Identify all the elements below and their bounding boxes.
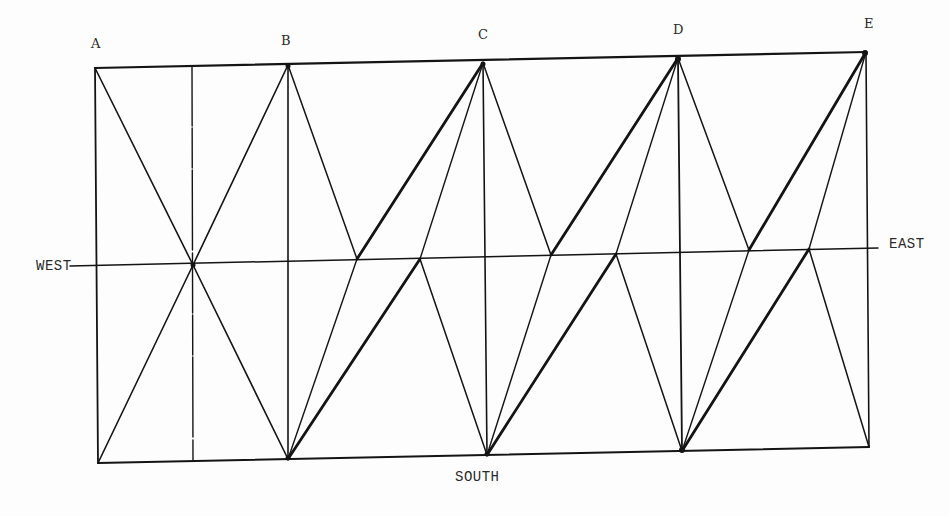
direction-label-south: SOUTH xyxy=(455,469,500,485)
diag-E-P5-heavy xyxy=(749,52,866,250)
joint-E-top xyxy=(862,50,868,56)
joint-B-bot xyxy=(286,456,291,461)
vertical-D xyxy=(678,58,682,451)
diag-Dbot-P6-heavy xyxy=(682,249,809,451)
diag-Bbot-M xyxy=(193,265,288,459)
diag-E-P6 xyxy=(809,52,866,249)
joint-D-bot xyxy=(679,447,685,453)
diag-Dbot-P5 xyxy=(682,250,749,451)
diag-C-P3 xyxy=(483,63,551,255)
diag-Bbot-P1 xyxy=(288,259,357,459)
diag-Ebot-P6 xyxy=(809,249,869,447)
node-label-A: A xyxy=(91,36,101,51)
joint-D-top xyxy=(675,56,681,62)
diag-Bbot-P2-heavy xyxy=(288,259,420,459)
diag-D-P5 xyxy=(678,58,749,250)
direction-label-east: EAST xyxy=(889,236,925,252)
node-label-D: D xyxy=(673,22,684,37)
direction-label-west: WEST xyxy=(36,258,72,274)
truss-drawing xyxy=(0,0,949,516)
joint-M xyxy=(191,263,196,268)
diag-Dbot-P4 xyxy=(616,254,682,451)
right-edge xyxy=(866,52,869,447)
diag-C-P2 xyxy=(420,63,483,259)
diag-Cbot-P4-heavy xyxy=(487,254,616,455)
diag-Abot-M xyxy=(98,265,193,463)
diag-D-P4 xyxy=(616,58,678,254)
diag-Cbot-P3 xyxy=(487,255,551,455)
node-label-B: B xyxy=(281,33,291,48)
joint-C-top xyxy=(481,62,486,67)
joint-B-top xyxy=(286,64,291,69)
node-label-E: E xyxy=(864,16,874,31)
node-label-C: C xyxy=(478,27,488,42)
vertical-C xyxy=(483,63,487,455)
diag-Cbot-P2 xyxy=(420,259,487,455)
diag-A-M xyxy=(95,68,193,265)
diag-C-P1-heavy xyxy=(357,63,483,259)
diag-D-P3-heavy xyxy=(551,58,678,255)
bottom-chord xyxy=(98,447,869,463)
diag-B-M xyxy=(193,65,288,265)
diag-B-P1 xyxy=(288,65,357,259)
truss-diagram: A B C D E WEST EAST SOUTH xyxy=(0,0,949,516)
joint-C-bot xyxy=(485,452,490,457)
